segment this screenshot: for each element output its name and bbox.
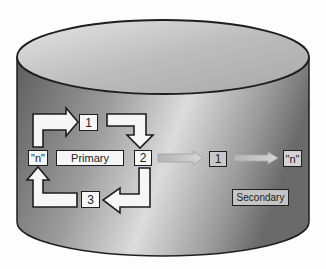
primary-node-n: "n" — [28, 150, 48, 166]
cylinder-top — [17, 20, 309, 94]
primary-label: Primary — [56, 150, 124, 166]
secondary-label: Secondary — [232, 189, 289, 206]
primary-node-3: 3 — [81, 191, 100, 208]
replication-diagram: 1 2 3 "n" Primary 1 "n" Secondary — [0, 0, 326, 269]
secondary-node-n: "n" — [283, 150, 302, 167]
cylinder-graphic — [0, 0, 326, 269]
secondary-node-1: 1 — [209, 151, 227, 167]
primary-node-1: 1 — [79, 114, 98, 131]
primary-node-2: 2 — [134, 150, 152, 166]
